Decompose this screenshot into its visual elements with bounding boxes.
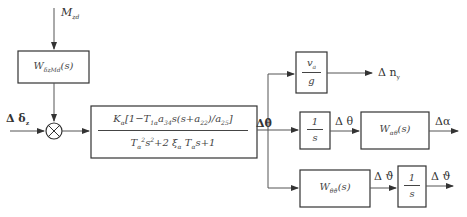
alpha-label: Δα: [435, 115, 450, 128]
integrator1-block: 1 s: [307, 116, 323, 143]
theta-label: Δ θ: [335, 115, 353, 128]
normal-load-label: Δ ny: [378, 66, 400, 80]
delta-input-label: Δ δz: [6, 112, 29, 126]
main-tf-numerator: Kα[1−T1αa34s(s+a22)/a25]: [98, 113, 248, 130]
pitch-rate-label: Δ ϑ̇: [374, 170, 393, 183]
main-transfer-function: Kα[1−T1αa34s(s+a22)/a25] Tα2s2+2 ξα Tαs+…: [98, 113, 248, 150]
walpha-block: Wαθ(s): [361, 123, 429, 136]
theta-dot-label: Δθ̇: [256, 117, 272, 130]
main-tf-denominator: Tα2s2+2 ξα Tαs+1: [98, 130, 248, 150]
gain-block: va g: [302, 57, 321, 86]
disturbance-block: WδzMd(s): [18, 60, 89, 73]
integrator2-block: 1 s: [404, 172, 420, 199]
wtheta-block: Wθ̇ϑ̇(s): [300, 181, 370, 194]
m-disturbance-label: Mzd: [61, 6, 79, 20]
pitch-label: Δ ϑ: [431, 170, 450, 183]
diagram-canvas: [0, 0, 467, 217]
